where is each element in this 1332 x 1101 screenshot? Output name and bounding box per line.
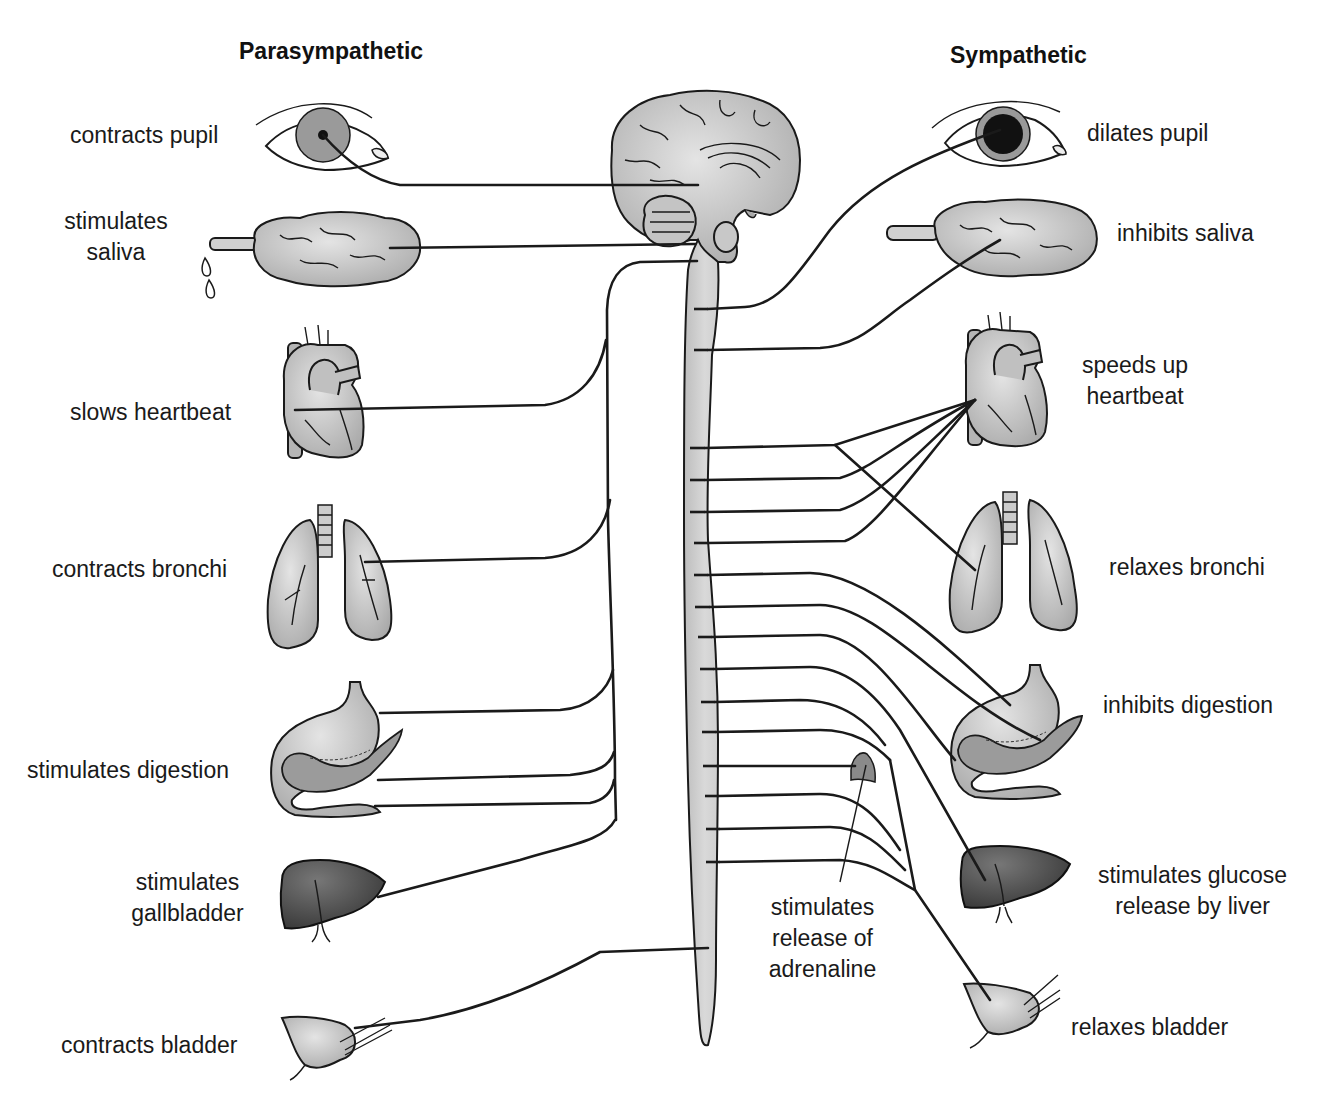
label-contracts-bronchi: contracts bronchi [52, 554, 227, 585]
stomach-pancreas-icon-parasympathetic [271, 682, 402, 817]
label-dilates-pupil: dilates pupil [1087, 118, 1208, 149]
label-relaxes-bladder: relaxes bladder [1071, 1012, 1228, 1043]
salivary-gland-icon-sympathetic [887, 200, 1097, 277]
label-line: stimulates [120, 867, 255, 898]
label-line: speeds up [1070, 350, 1200, 381]
spinal-cord-icon [684, 240, 719, 1045]
label-line: adrenaline [750, 954, 895, 985]
label-slows-heartbeat: slows heartbeat [70, 397, 231, 428]
liver-icon-parasympathetic [281, 860, 385, 942]
sympathetic-header: Sympathetic [950, 42, 1087, 69]
label-stimulates-gallbladder: stimulates gallbladder [120, 867, 255, 929]
heart-icon-parasympathetic [284, 325, 364, 458]
label-line: stimulates glucose [1085, 860, 1300, 891]
label-contracts-pupil: contracts pupil [70, 120, 218, 151]
lungs-icon-parasympathetic [268, 505, 392, 648]
label-inhibits-saliva: inhibits saliva [1117, 218, 1254, 249]
autonomic-nervous-system-diagram: Parasympathetic Sympathetic contracts pu… [0, 0, 1332, 1101]
eye-icon-sympathetic [932, 102, 1066, 166]
label-line: release of [750, 923, 895, 954]
label-line: stimulates [56, 206, 176, 237]
label-line: stimulates [750, 892, 895, 923]
label-relaxes-bronchi: relaxes bronchi [1109, 552, 1265, 583]
liver-icon-sympathetic [961, 846, 1070, 923]
label-speeds-up-heartbeat: speeds up heartbeat [1070, 350, 1200, 412]
label-line: gallbladder [120, 898, 255, 929]
label-stimulates-glucose-release: stimulates glucose release by liver [1085, 860, 1300, 922]
stomach-pancreas-icon-sympathetic [951, 665, 1082, 799]
heart-icon-sympathetic [966, 312, 1047, 446]
label-inhibits-digestion: inhibits digestion [1103, 690, 1273, 721]
label-stimulates-digestion: stimulates digestion [27, 755, 229, 786]
label-line: heartbeat [1070, 381, 1200, 412]
salivary-gland-icon-parasympathetic [202, 212, 420, 298]
label-line: release by liver [1085, 891, 1300, 922]
bladder-icon-sympathetic [964, 975, 1060, 1048]
diagram-artwork [0, 0, 1332, 1101]
label-stimulates-saliva: stimulates saliva [56, 206, 176, 268]
label-stimulates-release-of-adrenaline: stimulates release of adrenaline [750, 892, 895, 985]
parasympathetic-header: Parasympathetic [239, 38, 423, 65]
eye-icon-parasympathetic [256, 104, 388, 170]
lungs-icon-sympathetic [950, 492, 1077, 633]
label-line: saliva [56, 237, 176, 268]
label-contracts-bladder: contracts bladder [61, 1030, 237, 1061]
brain-icon [611, 91, 800, 263]
